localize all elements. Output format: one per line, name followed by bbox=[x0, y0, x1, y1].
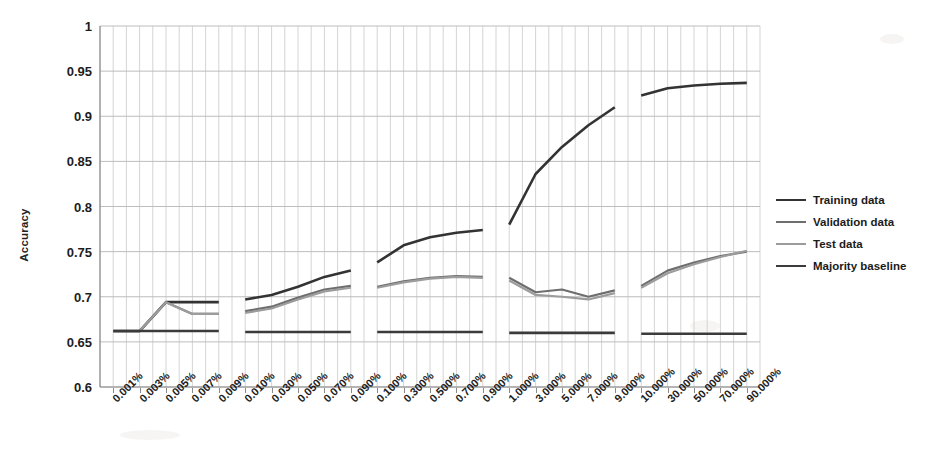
legend-label: Majority baseline bbox=[813, 260, 906, 272]
legend-line-swatch bbox=[776, 199, 806, 201]
legend-label: Validation data bbox=[813, 216, 894, 228]
legend-line-swatch bbox=[776, 221, 806, 223]
chart-legend: Training dataValidation dataTest dataMaj… bbox=[776, 190, 926, 278]
legend-entry: Majority baseline bbox=[776, 256, 926, 275]
legend-line-swatch bbox=[776, 265, 806, 267]
legend-label: Test data bbox=[813, 238, 863, 250]
legend-line-swatch bbox=[776, 243, 806, 245]
legend-entry: Validation data bbox=[776, 212, 926, 231]
accuracy-vs-training-size-chart: Accuracy 0.60.650.70.750.80.850.90.951 0… bbox=[0, 0, 928, 466]
legend-label: Training data bbox=[813, 194, 885, 206]
legend-entry: Test data bbox=[776, 234, 926, 253]
legend-entry: Training data bbox=[776, 190, 926, 209]
